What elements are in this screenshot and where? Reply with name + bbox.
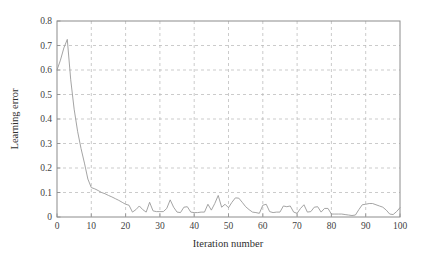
y-tick-label: 0.6 xyxy=(40,65,52,75)
y-tick-label: 0.2 xyxy=(40,163,52,173)
y-tick-label: 0.7 xyxy=(40,41,52,51)
y-axis-tick-labels: 00.10.20.30.40.50.60.70.8 xyxy=(40,16,52,222)
x-tick-label: 60 xyxy=(258,221,268,231)
y-tick-label: 0.1 xyxy=(40,188,52,198)
y-tick-label: 0 xyxy=(47,212,52,222)
y-tick-label: 0.4 xyxy=(40,114,52,124)
x-tick-label: 90 xyxy=(361,221,371,231)
figure-container: 0102030405060708090100 00.10.20.30.40.50… xyxy=(0,0,425,263)
x-axis-tick-labels: 0102030405060708090100 xyxy=(55,221,408,231)
y-tick-label: 0.3 xyxy=(40,139,52,149)
x-tick-label: 20 xyxy=(121,221,131,231)
x-tick-label: 0 xyxy=(55,221,60,231)
x-tick-label: 100 xyxy=(393,221,408,231)
x-tick-label: 80 xyxy=(327,221,337,231)
x-tick-label: 40 xyxy=(189,221,199,231)
y-axis-title: Learning error xyxy=(9,88,20,149)
learning-error-chart: 0102030405060708090100 00.10.20.30.40.50… xyxy=(0,0,425,263)
x-axis-title: Iteration number xyxy=(193,238,264,249)
x-tick-label: 50 xyxy=(224,221,234,231)
y-tick-label: 0.8 xyxy=(40,16,52,26)
x-tick-label: 70 xyxy=(292,221,302,231)
y-tick-label: 0.5 xyxy=(40,90,52,100)
x-tick-label: 30 xyxy=(155,221,165,231)
grid-lines xyxy=(57,21,400,217)
x-tick-label: 10 xyxy=(87,221,97,231)
